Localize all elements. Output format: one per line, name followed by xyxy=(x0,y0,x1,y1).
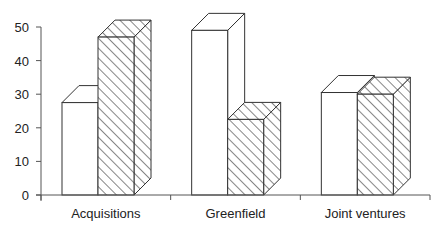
y-tick-label: 20 xyxy=(15,121,29,136)
bar-front-face xyxy=(357,94,393,195)
bar-front-face xyxy=(62,103,98,195)
y-tick-label: 10 xyxy=(15,154,29,169)
x-axis: AcquisitionsGreenfieldJoint ventures xyxy=(36,195,430,221)
x-category-label: Joint ventures xyxy=(325,206,406,221)
x-category-label: Acquisitions xyxy=(71,206,141,221)
bar-front-face xyxy=(228,119,264,195)
bar-acquisitions-series-2 xyxy=(98,20,151,195)
bars-layer xyxy=(62,13,410,195)
bar-front-face xyxy=(192,30,228,195)
x-category-label: Greenfield xyxy=(206,206,266,221)
bar-side-face xyxy=(134,20,151,195)
y-axis: 01020304050 xyxy=(15,20,41,203)
y-tick-label: 50 xyxy=(15,20,29,35)
bar-joint-ventures-series-2 xyxy=(357,77,410,195)
y-tick-label: 30 xyxy=(15,87,29,102)
bar-front-face xyxy=(98,37,134,195)
bar-greenfield-series-2 xyxy=(228,102,281,195)
grouped-3d-bar-chart: 01020304050 AcquisitionsGreenfieldJoint … xyxy=(0,0,445,227)
y-tick-label: 0 xyxy=(22,188,29,203)
bar-front-face xyxy=(321,93,357,195)
bar-side-face xyxy=(393,77,410,195)
y-tick-label: 40 xyxy=(15,54,29,69)
